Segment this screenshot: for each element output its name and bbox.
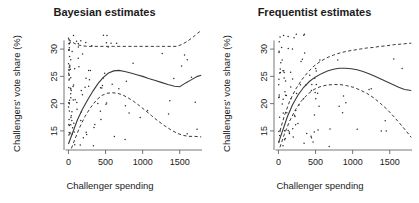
series-lower-95-confidence-bound [280, 85, 411, 148]
series-lower-95-credible-bound [71, 93, 201, 149]
panel-frequentist-estimates: Frequentist estimates Challengers' vote … [210, 0, 419, 203]
svg-text:15: 15 [259, 126, 269, 136]
svg-text:20: 20 [259, 99, 269, 109]
series-lines-frequentist [278, 43, 411, 147]
scatter-points-frequentist [278, 33, 403, 147]
svg-text:500: 500 [308, 157, 323, 167]
series-posterior-mean [68, 70, 201, 144]
figure-two-panel-smoothing: Bayesian estimates Challengers' vote sha… [0, 0, 419, 203]
series-lines-bayesian [68, 31, 201, 149]
scatter-points-bayesian [68, 35, 198, 147]
svg-text:30: 30 [49, 44, 59, 54]
series-upper-95-confidence-bound [280, 43, 411, 131]
svg-text:20: 20 [49, 99, 59, 109]
svg-text:15: 15 [49, 126, 59, 136]
axes-bayesian: 15202530050010001500 [49, 40, 202, 167]
plot-area-frequentist: 15202530050010001500 [210, 0, 419, 203]
svg-text:1000: 1000 [133, 157, 153, 167]
series-upper-95-credible-bound [68, 31, 201, 47]
svg-text:0: 0 [276, 157, 281, 167]
svg-text:1500: 1500 [170, 157, 190, 167]
plot-area-bayesian: 15202530050010001500 [0, 0, 209, 203]
svg-text:25: 25 [259, 71, 269, 81]
svg-text:1000: 1000 [343, 157, 363, 167]
svg-text:30: 30 [259, 44, 269, 54]
svg-text:25: 25 [49, 71, 59, 81]
svg-text:1500: 1500 [380, 157, 400, 167]
svg-text:500: 500 [98, 157, 113, 167]
svg-text:0: 0 [66, 157, 71, 167]
panel-bayesian-estimates: Bayesian estimates Challengers' vote sha… [0, 0, 209, 203]
